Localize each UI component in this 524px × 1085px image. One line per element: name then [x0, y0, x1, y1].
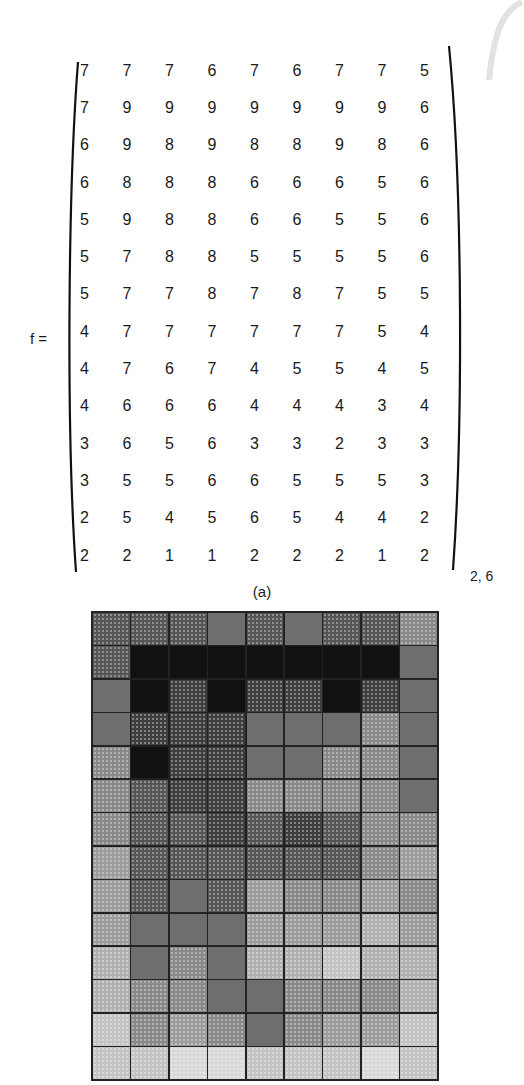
grid-pixel — [93, 713, 130, 745]
grid-pixel — [400, 1014, 437, 1046]
grid-pixel — [285, 813, 322, 845]
grid-pixel — [131, 747, 168, 779]
grid-pixel — [323, 1047, 360, 1079]
matrix-cell: 8 — [208, 211, 251, 229]
grid-pixel — [362, 747, 399, 779]
matrix-row: 577878755 — [80, 276, 463, 313]
matrix-row: 476745545 — [80, 350, 463, 387]
grid-pixel — [131, 613, 168, 645]
matrix-cell: 6 — [208, 472, 251, 490]
matrix-cell: 9 — [123, 136, 166, 154]
grid-pixel — [93, 747, 130, 779]
matrix-cell: 7 — [165, 323, 208, 341]
grid-pixel — [362, 680, 399, 712]
grid-pixel — [400, 813, 437, 845]
matrix-cell: 4 — [250, 397, 293, 415]
matrix-cell: 5 — [420, 62, 463, 80]
matrix-cell: 5 — [335, 248, 378, 266]
grid-pixel — [285, 1047, 322, 1079]
matrix-cell: 1 — [165, 547, 208, 565]
matrix-cell: 2 — [335, 435, 378, 453]
grid-pixel — [131, 646, 168, 678]
matrix-cell: 3 — [420, 435, 463, 453]
grid-pixel — [400, 880, 437, 912]
grid-pixel — [323, 646, 360, 678]
matrix-cell: 2 — [123, 547, 166, 565]
grid-pixel — [323, 847, 360, 879]
matrix-cell: 9 — [293, 99, 336, 117]
grid-pixel — [362, 646, 399, 678]
matrix-cell: 6 — [208, 397, 251, 415]
grid-pixel — [131, 914, 168, 946]
grid-pixel — [285, 780, 322, 812]
grid-pixel — [323, 914, 360, 946]
grid-pixel — [93, 880, 130, 912]
grid-pixel — [247, 947, 284, 979]
grid-pixel — [247, 646, 284, 678]
matrix-cell: 5 — [123, 472, 166, 490]
matrix-row: 688866656 — [80, 164, 463, 201]
grid-pixel — [208, 613, 245, 645]
grid-pixel — [247, 914, 284, 946]
matrix-cell: 9 — [208, 136, 251, 154]
grid-pixel — [362, 780, 399, 812]
grid-pixel — [170, 880, 207, 912]
matrix-cell: 5 — [165, 435, 208, 453]
grid-pixel — [285, 713, 322, 745]
grid-pixel — [285, 847, 322, 879]
matrix-cell: 6 — [165, 397, 208, 415]
matrix-cell: 1 — [208, 547, 251, 565]
grid-pixel — [247, 880, 284, 912]
matrix-cell: 5 — [335, 472, 378, 490]
matrix-cell: 9 — [123, 99, 166, 117]
grid-pixel — [208, 947, 245, 979]
grid-pixel — [93, 613, 130, 645]
matrix-cell: 6 — [208, 435, 251, 453]
matrix-values: 7776767757999999966989889866888666565988… — [80, 52, 463, 574]
matrix-cell: 3 — [80, 435, 123, 453]
grid-pixel — [247, 713, 284, 745]
grid-pixel — [208, 914, 245, 946]
matrix-cell: 7 — [335, 62, 378, 80]
grid-pixel — [208, 646, 245, 678]
grid-pixel — [247, 1047, 284, 1079]
grid-pixel — [362, 914, 399, 946]
grid-pixel — [208, 780, 245, 812]
matrix-cell: 2 — [80, 547, 123, 565]
matrix-cell: 7 — [250, 323, 293, 341]
grid-pixel — [208, 680, 245, 712]
matrix-cell: 8 — [378, 136, 421, 154]
matrix-cell: 9 — [335, 136, 378, 154]
grid-pixel — [400, 1047, 437, 1079]
matrix-cell: 6 — [420, 211, 463, 229]
grid-pixel — [170, 680, 207, 712]
matrix-cell: 7 — [378, 62, 421, 80]
matrix-row: 221122212 — [80, 537, 463, 574]
matrix-cell: 3 — [250, 435, 293, 453]
grid-pixel — [400, 947, 437, 979]
matrix-cell: 2 — [250, 547, 293, 565]
grid-pixel — [208, 1014, 245, 1046]
grid-pixel — [170, 780, 207, 812]
figure-caption: (a) — [0, 583, 524, 600]
matrix-cell: 6 — [250, 472, 293, 490]
matrix-cell: 6 — [80, 174, 123, 192]
matrix-cell: 6 — [293, 211, 336, 229]
matrix-cell: 8 — [165, 136, 208, 154]
matrix-cell: 5 — [80, 211, 123, 229]
matrix-cell: 4 — [165, 509, 208, 527]
grid-pixel — [208, 747, 245, 779]
matrix-cell: 4 — [80, 397, 123, 415]
matrix-cell: 7 — [165, 62, 208, 80]
matrix-cell: 7 — [208, 323, 251, 341]
matrix-cell: 9 — [378, 99, 421, 117]
matrix-cell: 7 — [123, 62, 166, 80]
grid-pixel — [247, 780, 284, 812]
grid-pixel — [362, 1047, 399, 1079]
grid-pixel — [131, 713, 168, 745]
matrix-cell: 5 — [293, 360, 336, 378]
matrix-cell: 8 — [293, 285, 336, 303]
grid-pixel — [285, 1014, 322, 1046]
matrix-row: 578855556 — [80, 238, 463, 275]
matrix-row: 466644434 — [80, 388, 463, 425]
